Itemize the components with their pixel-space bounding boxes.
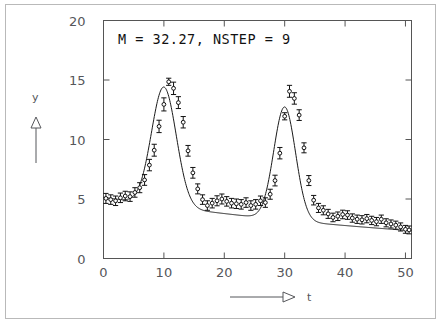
plot-canvas: 01020304050 05101520 t y M = 32.27, NSTE… [0,0,441,324]
y-axis-label-text: y [32,91,39,104]
data-point-marker [220,197,224,201]
figure-container: 01020304050 05101520 t y M = 32.27, NSTE… [0,0,441,324]
x-tick-label: 0 [99,265,107,280]
x-axis-label: t [230,291,312,304]
data-point-marker [278,151,282,155]
data-point-marker [384,221,388,225]
data-point-marker [259,199,263,203]
data-point-marker [172,86,176,90]
data-point-marker [370,219,374,223]
x-axis-tick-labels: 01020304050 [99,265,413,280]
y-axis-ticks [104,80,412,199]
data-point-marker [297,113,301,117]
data-point-marker [254,202,258,206]
data-point-marker [375,220,379,224]
data-point-marker [123,194,127,198]
plot-annotation: M = 32.27, NSTEP = 9 [118,31,291,47]
data-point-marker [230,201,234,205]
x-axis-arrowhead-icon [283,292,295,302]
data-point-marker [331,216,335,220]
y-tick-label: 5 [77,192,85,207]
data-point-marker [128,195,132,199]
data-point-marker [162,102,166,106]
data-point-marker [346,213,350,217]
data-point-marker [307,179,311,183]
data-point-marker [326,212,330,216]
data-point-marker [234,202,238,206]
data-point-marker [119,196,123,200]
data-point-marker [152,148,156,152]
data-point-marker [389,222,393,226]
data-point-marker [210,201,214,205]
data-point-marker [205,204,209,208]
y-tick-label: 15 [69,73,86,88]
data-point-marker [147,163,151,167]
data-point-marker [249,204,253,208]
data-point-marker [292,97,296,101]
data-point-marker [191,171,195,175]
x-tick-label: 20 [216,265,233,280]
data-point-marker [201,198,205,202]
data-point-marker [181,120,185,124]
data-point-marker [273,179,277,183]
y-tick-label: 0 [77,252,85,267]
data-point-marker [288,89,292,93]
data-point-marker [360,218,364,222]
data-point-marker [138,186,142,190]
data-point-marker [114,199,118,203]
data-point-marker [283,114,287,118]
data-point-marker [176,101,180,105]
data-point-marker [321,208,325,212]
data-point-marker [341,213,345,217]
data-point-marker [239,202,243,206]
data-point-marker [167,80,171,84]
y-tick-label: 20 [69,14,86,29]
data-point-marker [109,198,113,202]
data-point-marker [133,191,137,195]
x-tick-label: 50 [397,265,414,280]
y-axis-tick-labels: 05101520 [69,14,86,267]
data-point-marker [365,217,369,221]
data-point-marker [143,178,147,182]
data-point-marker [336,214,340,218]
y-tick-label: 10 [69,133,86,148]
data-point-marker [263,201,267,205]
x-tick-label: 10 [156,265,173,280]
data-point-marker [196,187,200,191]
y-axis-label: y [31,91,41,163]
x-tick-label: 30 [276,265,293,280]
data-point-marker [186,149,190,153]
data-point-marker [244,201,248,205]
data-point-marker [394,223,398,227]
data-point-marker [355,217,359,221]
data-point-marker [407,228,411,232]
data-point-marker [104,197,108,201]
data-point-marker [399,225,403,229]
data-point-marker [268,192,272,196]
data-point-marker [317,206,321,210]
data-point-marker [379,217,383,221]
x-axis-label-text: t [307,291,312,304]
data-point-marker [302,146,306,150]
data-point-marker [312,198,316,202]
error-bars [103,78,411,234]
data-point-marker [350,216,354,220]
x-tick-label: 40 [337,265,354,280]
y-axis-arrowhead-icon [31,117,41,128]
data-point-marker [157,125,161,129]
data-point-marker [225,199,229,203]
data-point-marker [215,199,219,203]
